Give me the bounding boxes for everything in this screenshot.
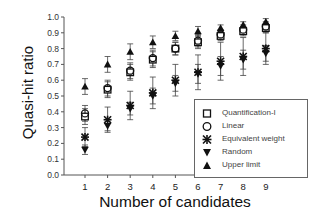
triangle-down-marker [104, 123, 112, 130]
triangle-up-marker [81, 83, 89, 90]
y-tick-label: 0.0 [47, 170, 59, 180]
y-tick-label: 0.3 [47, 123, 59, 133]
x-tick-label: 4 [150, 181, 155, 192]
x-tick-label: 7 [218, 181, 223, 192]
y-tick-label: 0.6 [47, 75, 59, 85]
x-tick-label: 6 [195, 181, 200, 192]
y-tick-label: 0.1 [47, 154, 59, 164]
x-tick-label: 8 [241, 181, 246, 192]
chart: 0.00.10.20.30.40.50.60.70.80.91.01234567… [0, 0, 315, 219]
legend-item-random: Random [195, 146, 307, 159]
triangle-up-marker [104, 61, 112, 68]
legend-item-quantification-i: Quantification-I [195, 107, 307, 120]
y-tick-label: 0.9 [47, 28, 59, 38]
y-tick-label: 0.2 [47, 138, 59, 148]
x-tick-label: 2 [105, 181, 110, 192]
x-tick-label: 5 [173, 181, 178, 192]
legend-item-upper-limit: Upper limit [195, 159, 307, 172]
y-tick-label: 0.5 [47, 91, 59, 101]
y-tick-label: 0.4 [47, 107, 59, 117]
triangle-up-marker [172, 32, 180, 39]
legend: Quantification-I Linear Equivalent weigh… [194, 99, 308, 178]
y-tick-label: 0.7 [47, 59, 59, 69]
x-tick-label: 1 [82, 181, 87, 192]
legend-item-equivalent-weight: Equivalent weight [195, 133, 307, 146]
y-axis-label: Quasi-hit ratio [19, 38, 36, 148]
triangle-up-marker [126, 48, 134, 55]
legend-item-linear: Linear [195, 120, 307, 133]
triangle-down-marker [262, 50, 270, 57]
y-tick-label: 1.0 [47, 12, 59, 22]
asterisk-marker [81, 133, 89, 141]
x-axis-label: Number of candidates [60, 193, 290, 211]
triangle-down-marker [81, 147, 89, 154]
triangle-up-marker [194, 27, 202, 34]
triangle-down-marker [217, 63, 225, 70]
triangle-up-marker [149, 38, 157, 45]
x-tick-label: 3 [128, 181, 133, 192]
asterisk-marker [104, 116, 112, 124]
open-square-icon [201, 107, 213, 120]
y-tick-label: 0.8 [47, 44, 59, 54]
x-tick-label: 9 [263, 181, 268, 192]
triangle-down-icon [201, 146, 213, 159]
asterisk-icon [201, 133, 213, 146]
triangle-up-icon [201, 159, 213, 172]
open-circle-icon [201, 120, 213, 133]
